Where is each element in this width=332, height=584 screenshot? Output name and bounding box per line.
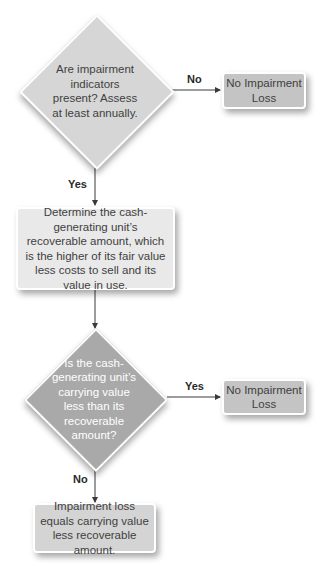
decision2-no-label: No <box>73 473 88 485</box>
decision2-yes-label: Yes <box>185 380 204 392</box>
decision2-text: Is the cash-generating unit’s carrying v… <box>47 363 141 435</box>
decision1-text: Are impairment indicators present? Asses… <box>47 55 143 127</box>
process1-box: Determine the cash-generating unit’s rec… <box>16 207 175 290</box>
decision1-no-label: No <box>187 73 202 85</box>
decision1-yes-label: Yes <box>68 178 87 190</box>
outcome2-box: No Impairment Loss <box>222 379 306 415</box>
outcome1-box: No Impairment Loss <box>222 72 306 109</box>
outcome3-box: Impairment loss equals carrying value le… <box>33 503 156 553</box>
